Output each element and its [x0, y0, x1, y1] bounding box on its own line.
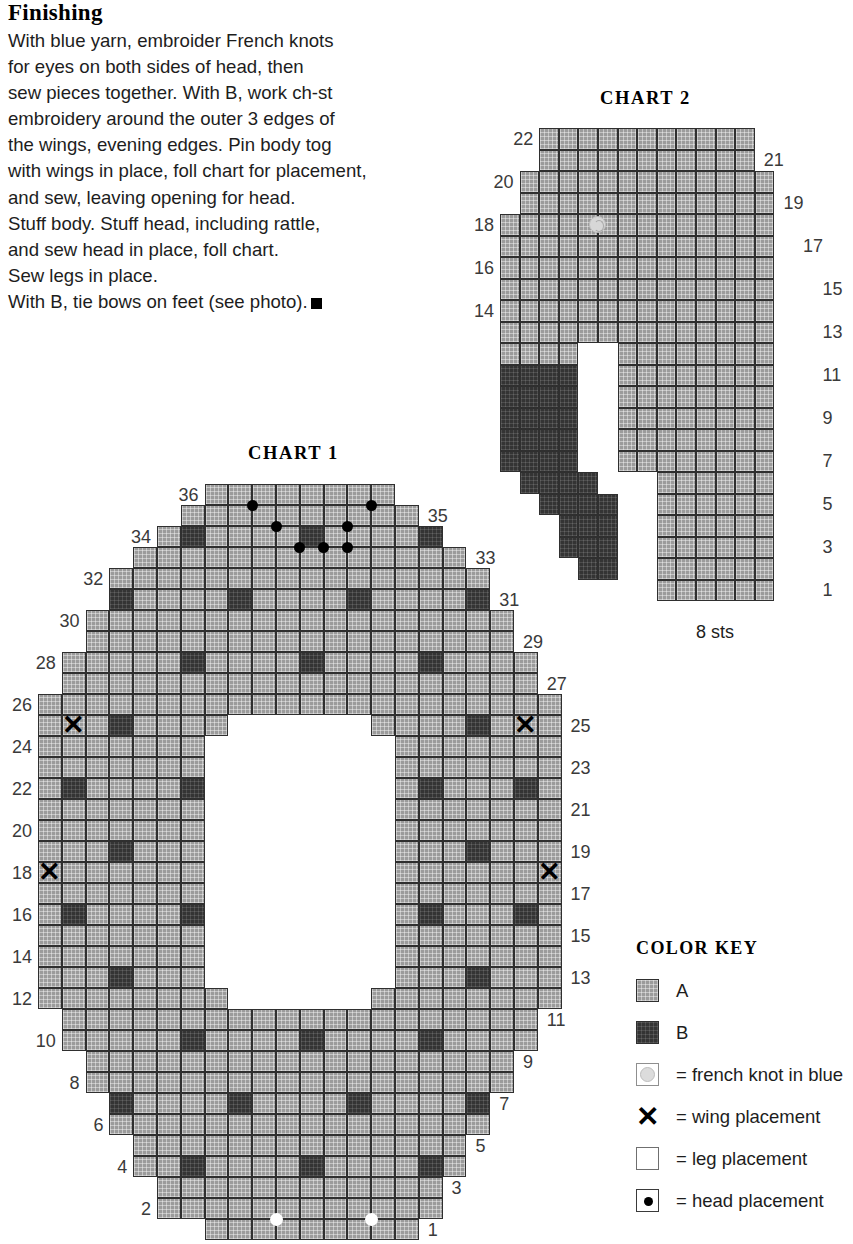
chart-cell-opening: [371, 757, 395, 778]
chart-cell-opening: [300, 820, 324, 841]
chart-cell-b: [419, 1156, 443, 1177]
row-number-left: 28: [10, 654, 56, 672]
chart-cell-a: [696, 279, 716, 301]
chart-cell-a: [716, 150, 736, 172]
chart-cell-a: [466, 610, 490, 631]
chart-cell-a: [109, 610, 133, 631]
chart-cell-a: [347, 1009, 371, 1030]
finishing-line: for eyes on both sides of head, then: [8, 54, 428, 80]
chart-cell-opening: [598, 386, 618, 408]
chart-cell-opening: [300, 967, 324, 988]
chart-cell-a: [252, 1135, 276, 1156]
chart-cell-a: [676, 494, 696, 516]
chart-cell-a: [228, 1051, 252, 1072]
chart-cell-a: [300, 673, 324, 694]
chart-cell-a: [466, 883, 490, 904]
chart-cell-a: [109, 820, 133, 841]
chart-cell-a: [62, 988, 86, 1009]
chart2-title: CHART 2: [600, 88, 691, 109]
chart-cell-a: [443, 673, 467, 694]
finishing-line: Stuff body. Stuff head, including rattle…: [8, 211, 428, 237]
chart-cell-opening: [228, 736, 252, 757]
chart-cell-a: [466, 778, 490, 799]
chart-cell-a: [618, 171, 638, 193]
chart-cell-a: [466, 568, 490, 589]
chart-cell-a: [62, 673, 86, 694]
chart-cell-a: [157, 568, 181, 589]
chart-cell-opening: [252, 904, 276, 925]
finishing-line: embroidery around the outer 3 edges of: [8, 106, 428, 132]
chart-cell-a: [443, 610, 467, 631]
chart-cell-a: [419, 1135, 443, 1156]
chart-cell-a: [157, 1177, 181, 1198]
chart-cell-opening: [252, 967, 276, 988]
chart-cell-a: [735, 193, 755, 215]
chart-cell-a: [109, 946, 133, 967]
finishing-heading: Finishing: [8, 0, 428, 26]
row-number-left: 8: [34, 1074, 80, 1092]
chart-cell-a: [62, 883, 86, 904]
chart-cell-a: [657, 257, 677, 279]
chart-cell-b: [539, 386, 559, 408]
chart-cell-opening: [276, 715, 300, 736]
chart-cell-a: [490, 652, 514, 673]
chart-cell-a: [109, 631, 133, 652]
chart-cell-a: [637, 171, 657, 193]
chart-cell-a: [157, 736, 181, 757]
chart-cell-a: [716, 128, 736, 150]
chart-cell-a: [300, 568, 324, 589]
chart-cell-a: [371, 1072, 395, 1093]
chart-cell-opening: [228, 778, 252, 799]
chart-cell-a: [538, 694, 562, 715]
chart-cell-a: [443, 1114, 467, 1135]
chart-cell-opening: [205, 946, 229, 967]
chart-cell-opening: [228, 715, 252, 736]
chart-cell-opening: [324, 862, 348, 883]
chart-cell-a: [696, 300, 716, 322]
chart-cell-a: [559, 193, 579, 215]
chart-cell-a: [347, 1114, 371, 1135]
chart-cell-a: [466, 1009, 490, 1030]
chart-cell-opening: [347, 883, 371, 904]
leg-placement-square-icon: [636, 1147, 659, 1170]
chart-cell-b: [598, 537, 618, 559]
chart-cell-a: [324, 1114, 348, 1135]
chart-cell-opening: [252, 988, 276, 1009]
chart-cell-a: [735, 537, 755, 559]
chart-cell-a: [133, 589, 157, 610]
chart-cell-a: [735, 472, 755, 494]
chart-cell-a: [755, 537, 775, 559]
chart-cell-a: [109, 925, 133, 946]
chart-cell-a: [157, 799, 181, 820]
chart-cell-opening: [371, 736, 395, 757]
chart-cell-b: [500, 408, 520, 430]
chart-cell-a: [228, 568, 252, 589]
chart-cell-opening: [228, 841, 252, 862]
chart-cell-opening: [324, 925, 348, 946]
row-number-right: 9: [523, 1053, 533, 1071]
chart-cell-a: [395, 778, 419, 799]
chart-cell-a: [109, 1051, 133, 1072]
chart-cell-opening: [324, 715, 348, 736]
chart-cell-opening: [637, 558, 657, 580]
chart-cell-a: [324, 694, 348, 715]
chart-cell-a: [466, 1072, 490, 1093]
chart-cell-a: [252, 1177, 276, 1198]
chart-cell-opening: [228, 883, 252, 904]
chart-cell-a: [443, 799, 467, 820]
row-number-left: 4: [81, 1158, 127, 1176]
chart-cell-opening: [618, 558, 638, 580]
chart-cell-a: [109, 778, 133, 799]
chart-cell-a: [490, 925, 514, 946]
chart-cell-b: [500, 451, 520, 473]
chart-cell-a: [696, 343, 716, 365]
chart-cell-a: [38, 946, 62, 967]
row-number-right: 35: [428, 507, 448, 525]
finishing-line-text: With B, tie bows on feet (see photo).: [8, 291, 308, 312]
chart-cell-opening: [205, 904, 229, 925]
chart-cell-a: [371, 1051, 395, 1072]
chart-cell-a: [637, 279, 657, 301]
chart-cell-a: [696, 150, 716, 172]
chart-cell-a: [86, 1030, 110, 1051]
chart-cell-b: [419, 1030, 443, 1051]
